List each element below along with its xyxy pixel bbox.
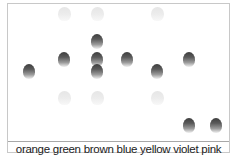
column-label-green: green	[53, 143, 81, 155]
ghost-ball-brown	[91, 91, 104, 105]
column-label-pink: pink	[201, 143, 221, 155]
ghost-ball-green	[58, 91, 71, 105]
game-frame	[7, 3, 230, 153]
ghost-ball-yellow	[151, 7, 164, 21]
column-labels: orangegreenbrownblueyellowvioletpink	[0, 140, 237, 158]
column-label-yellow: yellow	[140, 143, 170, 155]
ball-brown[interactable]	[91, 64, 103, 79]
ball-orange[interactable]	[23, 64, 35, 79]
column-label-blue: blue	[117, 143, 138, 155]
column-label-brown: brown	[84, 143, 114, 155]
game-board[interactable]	[8, 4, 229, 141]
ball-pink[interactable]	[210, 118, 222, 133]
column-label-orange: orange	[16, 143, 50, 155]
ball-green[interactable]	[58, 52, 70, 67]
ball-violet[interactable]	[183, 52, 195, 67]
ball-yellow[interactable]	[151, 64, 163, 79]
ball-violet[interactable]	[183, 118, 195, 133]
ball-blue[interactable]	[121, 52, 133, 67]
ghost-ball-yellow	[151, 91, 164, 105]
ghost-ball-green	[58, 7, 71, 21]
ball-brown[interactable]	[91, 34, 103, 49]
ghost-ball-brown	[91, 7, 104, 21]
column-label-violet: violet	[173, 143, 198, 155]
